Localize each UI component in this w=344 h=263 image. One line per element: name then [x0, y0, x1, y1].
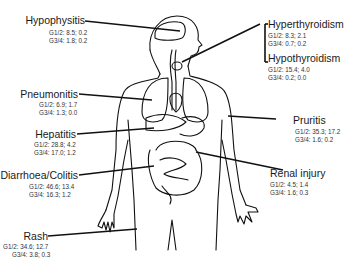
hepatitis-stats: G1/2: 28.8; 4.2 G3/4: 17.0; 1.2: [34, 141, 76, 156]
label-renal-injury: Renal injury G1/2: 4.5; 1.4 G3/4: 1.6; 0…: [270, 167, 325, 196]
diarrhoea-title: Diarrhoea/Colitis: [0, 169, 78, 181]
hypothyroidism-g34: G3/4: 0.2; 0.0: [268, 74, 340, 82]
leader-rash: [48, 229, 137, 236]
label-diarrhoea-colitis: Diarrhoea/Colitis: [0, 169, 78, 181]
hepatitis-g12: G1/2: 28.8; 4.2: [34, 141, 76, 149]
pneumonitis-stats: G1/2: 6.9; 1.7 G3/4: 1.3; 0.0: [39, 101, 77, 116]
hepatitis-title: Hepatitis: [10, 128, 76, 140]
diarrhoea-stats: G1/2: 46.6; 13.4 G3/4: 16.3; 1.2: [29, 183, 74, 198]
hypophysitis-g12: G1/2: 8.5; 0.2: [49, 29, 87, 37]
rash-g34: G3/4: 3.8; 0.3: [3, 251, 50, 259]
label-hepatitis: Hepatitis: [10, 128, 76, 140]
label-hyperthyroidism: Hyperthyroidism G1/2: 8.3; 2.1 G3/4: 0.7…: [268, 18, 344, 47]
hypophysitis-g34: G3/4: 1.8; 0.2: [49, 37, 87, 45]
leader-diarrhoea: [79, 166, 154, 175]
rash-g12: G1/2: 34.6; 12.7: [3, 243, 50, 251]
label-pneumonitis: Pneumonitis: [10, 88, 78, 100]
rash-stats: G1/2: 34.6; 12.7 G3/4: 3.8; 0.3: [3, 243, 50, 258]
hepatitis-g34: G3/4: 17.0; 1.2: [34, 149, 76, 157]
rash-title: Rash: [10, 230, 48, 242]
hyperthyroidism-title: Hyperthyroidism: [268, 18, 344, 30]
pruritis-stats: G1/2: 35.3; 17.2 G3/4: 1.6; 0.2: [295, 128, 340, 143]
pruritis-title: Pruritis: [293, 114, 326, 126]
diarrhoea-g34: G3/4: 16.3; 1.2: [29, 191, 74, 199]
leader-thyroid: [182, 24, 260, 62]
renal-g12: G1/2: 4.5; 1.4: [270, 181, 325, 189]
renal-title: Renal injury: [270, 167, 325, 179]
label-rash: Rash: [10, 230, 48, 242]
hypophysitis-title: Hypophysitis: [25, 14, 85, 26]
label-hypophysitis: Hypophysitis: [25, 14, 85, 26]
hyperthyroidism-g12: G1/2: 8.3; 2.1: [268, 32, 344, 40]
hypothyroidism-g12: G1/2: 15.4; 4.0: [268, 66, 340, 74]
hypothyroidism-title: Hypothyroidism: [268, 52, 340, 64]
leader-pneumonitis: [79, 94, 152, 100]
diarrhoea-g12: G1/2: 46.6; 13.4: [29, 183, 74, 191]
pneumonitis-title: Pneumonitis: [10, 88, 78, 100]
leader-pruritis: [228, 116, 276, 119]
hypophysitis-stats: G1/2: 8.5; 0.2 G3/4: 1.8; 0.2: [49, 29, 87, 44]
label-pruritis: Pruritis: [293, 114, 326, 126]
pruritis-g34: G3/4: 1.6; 0.2: [295, 136, 340, 144]
pneumonitis-g34: G3/4: 1.3; 0.0: [39, 109, 77, 117]
pneumonitis-g12: G1/2: 6.9; 1.7: [39, 101, 77, 109]
label-hypothyroidism: Hypothyroidism G1/2: 15.4; 4.0 G3/4: 0.2…: [268, 52, 340, 81]
pruritis-g12: G1/2: 35.3; 17.2: [295, 128, 340, 136]
hyperthyroidism-g34: G3/4: 0.7; 0.2: [268, 40, 344, 48]
leader-hepatitis: [77, 128, 154, 134]
renal-g34: G3/4: 1.6; 0.3: [270, 189, 325, 197]
